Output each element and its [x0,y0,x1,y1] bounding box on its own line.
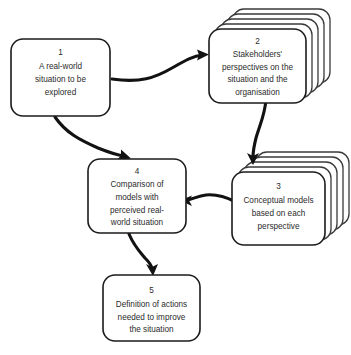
edge-4-5-line [129,234,152,268]
edge-3-4 [180,195,236,206]
edge-1-4-line [55,117,124,156]
node-5-number: 5 [149,286,154,295]
node-3-line-2: based on each [252,209,306,218]
node-2-line-4: organisation [235,88,280,97]
node-4-line-4: world situation [110,218,164,227]
node-2-number: 2 [255,37,260,46]
node-4-line-3: perceived real- [110,206,164,215]
edge-4-5 [129,234,158,276]
flow-diagram: 1 A real-world situation to be explored … [0,0,351,355]
node-1-number: 1 [58,48,63,57]
edge-1-4 [55,117,131,160]
node-5-line-1: Definition of actions [116,300,187,309]
edge-2-3-line [253,99,266,157]
node-4-line-1: Comparison of [110,180,164,189]
edge-1-2-line [112,55,203,80]
node-1-line-3: explored [45,88,77,97]
node-5-line-2: needed to improve [118,313,186,322]
node-2-line-1: Stakeholders' [233,50,283,59]
node-4-line-2: models with [115,193,159,202]
node-5-line-3: the situation [129,325,174,334]
edge-3-4-line [187,195,236,202]
node-1[interactable]: 1 A real-world situation to be explored [11,39,110,116]
edge-1-2 [112,50,209,81]
node-3-line-1: Conceptual models [243,196,313,205]
node-4-number: 4 [135,167,140,176]
node-3-number: 3 [276,182,281,191]
diagram-canvas: 1 A real-world situation to be explored … [0,0,351,355]
node-2-line-2: perspectives on the [222,63,293,72]
node-5[interactable]: 5 Definition of actions needed to improv… [103,275,200,341]
node-1-line-2: situation to be [35,75,86,84]
node-4[interactable]: 4 Comparison of models with perceived re… [88,159,186,233]
node-1-line-1: A real-world [39,62,83,71]
node-3[interactable]: 3 Conceptual models based on each perspe… [232,172,325,245]
node-2[interactable]: 2 Stakeholders' perspectives on the situ… [209,29,306,103]
node-2-line-3: situation and the [227,75,288,84]
node-3-line-3: perspective [258,222,300,231]
